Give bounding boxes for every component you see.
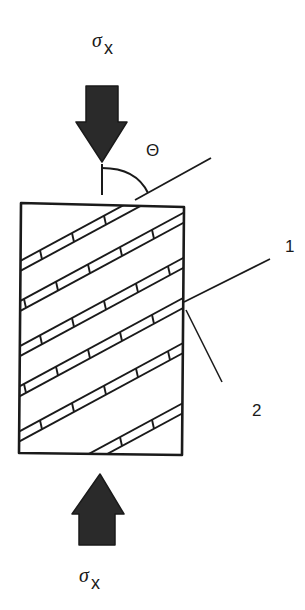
callout-2-leader [186,310,222,382]
callout-1-label: 1 [285,238,294,255]
bottom-stress-label: σx [79,565,100,585]
top-stress-label: σx [92,30,113,50]
bottom-load-arrow-icon [72,474,124,545]
angle-label: Θ [146,142,159,159]
callout-2-label: 2 [252,402,261,419]
overlay-canvas [0,0,305,610]
sigma-symbol: σ [79,564,89,586]
stress-subscript: x [104,38,113,58]
stress-subscript: x [91,573,100,593]
sigma-symbol: σ [92,29,102,51]
callout-1-leader [184,259,270,302]
